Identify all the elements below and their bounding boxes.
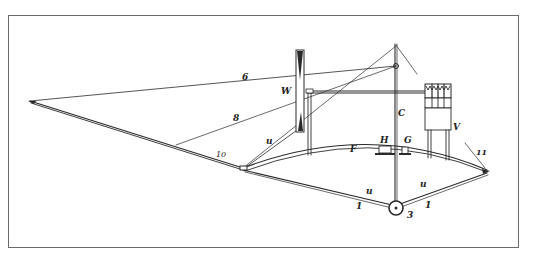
label-h: H — [379, 135, 389, 145]
label-3: 3 — [407, 210, 413, 220]
label-c: C — [398, 108, 406, 118]
label-1-right: 1 — [425, 200, 431, 210]
label-11: 11 — [476, 147, 487, 157]
label-u-right: u — [420, 179, 427, 189]
line-8 — [176, 66, 396, 145]
cord-right — [400, 173, 487, 204]
box-v — [425, 84, 451, 160]
curved-spar-f — [243, 144, 487, 172]
label-u-left: u — [266, 136, 273, 146]
label-w: W — [281, 86, 292, 96]
brace-line — [243, 46, 396, 168]
label-8: 8 — [233, 113, 240, 123]
label-u-bottom: u — [366, 186, 373, 196]
line-6 — [30, 66, 396, 101]
line-u-left — [246, 128, 300, 167]
label-f: F — [349, 144, 357, 154]
block-h — [379, 146, 391, 153]
left-joint — [240, 166, 247, 170]
label-1-left: 1 — [356, 201, 362, 211]
panel-w — [296, 50, 304, 132]
block-g — [402, 147, 408, 154]
label-10: 10 — [216, 150, 226, 159]
mechanism-diagram: 6 8 10 W u F H G C V 11 u u 1 1 3 — [0, 0, 533, 264]
label-6: 6 — [242, 72, 249, 82]
mast-stay — [396, 45, 417, 74]
label-g: G — [404, 135, 412, 145]
lower-boom — [30, 101, 243, 170]
label-v: V — [453, 122, 461, 132]
cord-right-2 — [401, 175, 488, 207]
